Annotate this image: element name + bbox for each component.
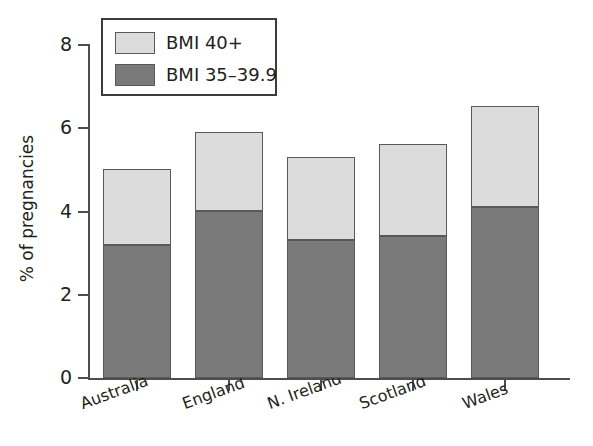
- chart-legend: BMI 40+ BMI 35–39.9: [101, 18, 277, 96]
- bar-segment-scotland-bmi-35-39: [379, 236, 447, 378]
- bar-segment-n-ireland-bmi-40plus: [287, 157, 355, 240]
- y-tick-label-2: 2: [48, 285, 72, 304]
- legend-label-bmi-40plus: BMI 40+: [166, 34, 243, 52]
- bar-segment-scotland-bmi-40plus: [379, 144, 447, 236]
- y-tick-label-4: 4: [48, 202, 72, 221]
- y-tick-mark-0: [78, 377, 88, 379]
- y-tick-mark-8: [78, 44, 88, 46]
- y-tick-label-0: 0: [48, 368, 72, 387]
- bar-segment-england-bmi-35-39: [195, 211, 263, 378]
- bar-segment-n-ireland-bmi-35-39: [287, 240, 355, 378]
- stacked-bar-chart: 8 6 4 2 0 % of pregnancies Australia Eng…: [0, 0, 593, 446]
- bar-segment-wales-bmi-40plus: [471, 106, 539, 207]
- y-tick-mark-2: [78, 294, 88, 296]
- bar-segment-wales-bmi-35-39: [471, 207, 539, 378]
- bar-segment-england-bmi-40plus: [195, 132, 263, 211]
- x-tick-label-wales: Wales: [460, 380, 510, 412]
- y-tick-label-6: 6: [48, 118, 72, 137]
- legend-swatch-bmi-35-39: [115, 64, 155, 86]
- y-tick-mark-6: [78, 127, 88, 129]
- bar-segment-australia-bmi-40plus: [103, 169, 171, 245]
- legend-label-bmi-35-39: BMI 35–39.9: [166, 66, 277, 84]
- legend-swatch-bmi-40plus: [115, 32, 155, 54]
- y-axis-title: % of pregnancies: [19, 114, 36, 304]
- legend-item-bmi-40plus: BMI 40+: [115, 28, 275, 58]
- y-tick-mark-4: [78, 211, 88, 213]
- y-tick-label-8: 8: [48, 35, 72, 54]
- legend-item-bmi-35-39: BMI 35–39.9: [115, 60, 275, 90]
- bar-segment-australia-bmi-35-39: [103, 245, 171, 378]
- y-axis-line: [88, 44, 90, 379]
